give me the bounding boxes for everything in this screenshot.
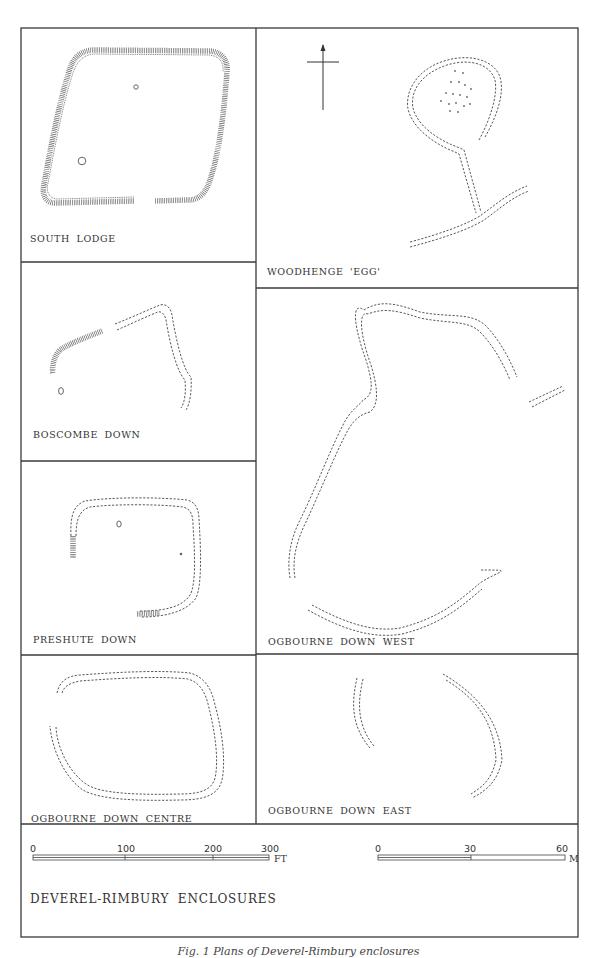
- north-arrow-icon: [307, 44, 339, 110]
- panel-label-preshute-down: PRESHUTE DOWN: [33, 634, 137, 645]
- woodhenge-enclosure-plan: [408, 58, 529, 247]
- pit-feature: [134, 85, 138, 89]
- panel-ogbourne-down-west: OGBOURNE DOWN WEST: [268, 304, 565, 647]
- south-lodge-enclosure-plan: [43, 50, 227, 203]
- ogbourne-down-centre-enclosure-plan: [50, 672, 224, 801]
- panel-label-ogbourne-down-east: OGBOURNE DOWN EAST: [268, 805, 412, 816]
- scale-tick-label: 60: [556, 843, 568, 854]
- panel-label-south-lodge: SOUTH LODGE: [30, 233, 116, 244]
- panel-woodhenge-egg: WOODHENGE 'EGG': [267, 44, 529, 277]
- boscombe-down-enclosure-plan: [53, 305, 192, 410]
- scale-tick-label: 100: [117, 843, 135, 854]
- figure-title: DEVEREL-RIMBURY ENCLOSURES: [30, 892, 276, 906]
- panel-preshute-down: PRESHUTE DOWN: [33, 498, 201, 645]
- pit-feature: [180, 553, 183, 556]
- figure-caption: Fig. 1 Plans of Deverel-Rimbury enclosur…: [0, 945, 597, 958]
- panel-label-ogbourne-down-west: OGBOURNE DOWN WEST: [268, 636, 415, 647]
- pit-feature: [78, 157, 86, 165]
- scale-tick-label: 0: [375, 843, 381, 854]
- scale-tick-label: 30: [464, 843, 476, 854]
- panel-boscombe-down: BOSCOMBE DOWN: [33, 305, 191, 440]
- panel-south-lodge: SOUTH LODGE: [30, 50, 227, 244]
- scale-bar-metres: 0 30 60 M: [375, 843, 579, 864]
- pit-feature: [59, 388, 64, 395]
- scale-unit-label: FT: [274, 853, 288, 864]
- enclosure-plate: SOUTH LODGE WOODHENGE: [0, 0, 597, 958]
- scale-row: 0 100 200 300 FT 0 30 60 M DEVEREL-RIMBU…: [30, 843, 579, 906]
- panel-label-woodhenge-egg: WOODHENGE 'EGG': [267, 266, 380, 277]
- ogbourne-down-west-enclosure-plan: [289, 304, 565, 636]
- scale-bar-feet: 0 100 200 300 FT: [30, 843, 288, 864]
- panel-ogbourne-down-centre: OGBOURNE DOWN CENTRE: [31, 672, 224, 824]
- post-hole-cluster: [440, 70, 472, 113]
- plate-frame: [21, 28, 578, 937]
- panel-label-ogbourne-down-centre: OGBOURNE DOWN CENTRE: [31, 813, 192, 824]
- scale-unit-label: M: [569, 853, 579, 864]
- panel-label-boscombe-down: BOSCOMBE DOWN: [33, 429, 140, 440]
- pit-feature: [117, 521, 121, 527]
- scale-tick-label: 0: [30, 843, 36, 854]
- scale-tick-label: 200: [204, 843, 222, 854]
- outer-border: [21, 28, 578, 937]
- preshute-down-enclosure-plan: [71, 498, 201, 617]
- ogbourne-down-east-enclosure-plan: [354, 674, 502, 798]
- panel-ogbourne-down-east: OGBOURNE DOWN EAST: [268, 674, 502, 816]
